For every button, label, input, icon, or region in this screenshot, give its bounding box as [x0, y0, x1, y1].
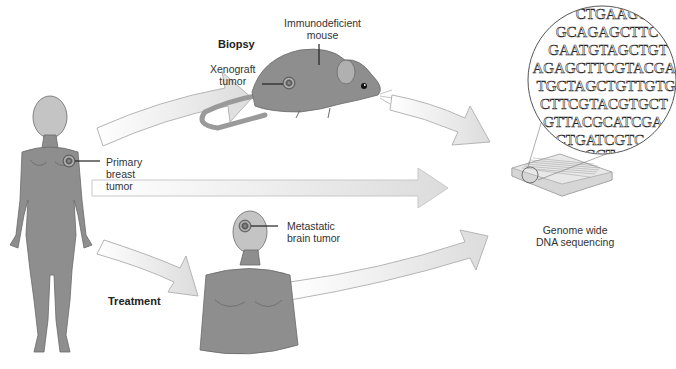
biopsy-label: Biopsy [218, 38, 255, 50]
xenograft-label: Xenograft tumor [210, 63, 256, 87]
sequencing-slide [512, 154, 612, 196]
metastatic-tumor-marker [239, 220, 251, 232]
metastatic-label-line1: Metastatic [287, 220, 340, 232]
dna-line: CTTCGTACGTGCT [540, 96, 668, 112]
dna-line: CTGATCGTC [556, 132, 644, 148]
mouse-label-line1: Immunodeficient [284, 17, 361, 29]
metastatic-tumor-label: Metastatic brain tumor [287, 220, 340, 244]
xenograft-label-line1: Xenograft [210, 63, 256, 75]
sequencing-label-line1: Genome wide [536, 224, 614, 236]
patient-full-body-figure [10, 96, 92, 352]
sequencing-label: Genome wide DNA sequencing [536, 224, 614, 248]
xenograft-label-line2: tumor [210, 75, 256, 87]
xenograft-tumor-marker [283, 77, 295, 89]
dna-line: CTGAAGC [576, 6, 649, 22]
patient-upper-body-figure [200, 211, 298, 354]
primary-label-line2: breast [106, 168, 142, 180]
dna-line: AGAGCTTCGTACGA [533, 60, 676, 76]
dna-line: TGCTAGCTGTTGTG [537, 78, 676, 94]
mouse-label-line2: mouse [284, 29, 361, 41]
primary-tumor-label: Primary breast tumor [106, 156, 142, 192]
dna-line: GCAGAGCTTC [556, 24, 659, 40]
arrow-primary-to-sequencing [92, 168, 448, 208]
treatment-label: Treatment [108, 295, 161, 307]
dna-line: GAATGTAGCTGT [548, 42, 668, 58]
metastatic-label-line2: brain tumor [287, 232, 340, 244]
sequencing-label-line2: DNA sequencing [536, 236, 614, 248]
arrow-mouse-to-sequencing [390, 95, 490, 145]
primary-tumor-marker [63, 155, 75, 167]
dna-line: GTTACGCATCGA [543, 114, 663, 130]
primary-label-line3: tumor [106, 180, 142, 192]
arrow-to-metastasis [97, 240, 198, 296]
mouse-label: Immunodeficient mouse [284, 17, 361, 41]
primary-label-line1: Primary [106, 156, 142, 168]
